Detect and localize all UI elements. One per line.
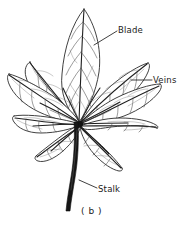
stalk-leader-line [79, 180, 97, 188]
leaf-drawing [0, 0, 183, 225]
figure-caption: ( b ) [0, 206, 183, 216]
blade-leader-line [94, 31, 117, 45]
annotation-label-stalk: Stalk [98, 185, 120, 194]
annotation-label-blade: Blade [118, 26, 143, 35]
leaf-diagram-figure: Blade Veins Stalk ( b ) [0, 0, 183, 225]
leaflet-bottom-right [80, 127, 122, 171]
annotation-label-veins: Veins [153, 76, 177, 85]
